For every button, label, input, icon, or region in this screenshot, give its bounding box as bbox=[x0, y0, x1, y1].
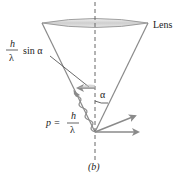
lens-label: Lens bbox=[153, 19, 173, 30]
uncertainty-denominator: λ bbox=[9, 52, 14, 63]
momentum-numerator: h bbox=[71, 110, 76, 121]
leader-line bbox=[50, 56, 89, 87]
angle-arc bbox=[95, 101, 108, 103]
cone-right-edge bbox=[95, 23, 148, 132]
photon-lens-diagram: Lens h λ sin α α p = h λ (b) bbox=[0, 0, 179, 175]
angle-label: α bbox=[100, 89, 106, 100]
momentum-denominator: λ bbox=[70, 124, 75, 135]
momentum-prefix: p = bbox=[45, 117, 60, 128]
cone-left-edge bbox=[42, 23, 95, 132]
uncertainty-numerator: h bbox=[10, 38, 15, 49]
panel-label: (b) bbox=[88, 161, 100, 173]
uncertainty-suffix: sin α bbox=[23, 45, 43, 56]
scatter-region-shade bbox=[78, 84, 95, 88]
